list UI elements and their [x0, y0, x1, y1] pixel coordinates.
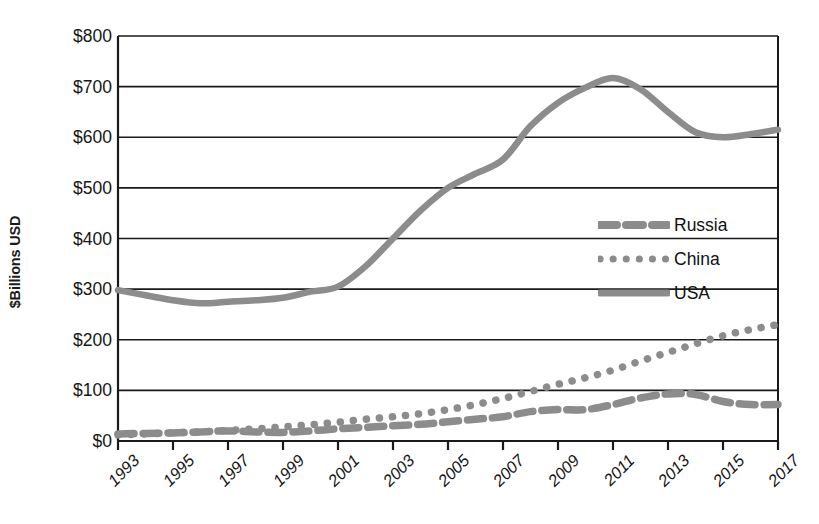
legend-label: Russia [674, 215, 728, 236]
line-chart: $Billions USD $800$700$600$500$400$300$2… [0, 0, 819, 524]
legend-item-china[interactable]: China [598, 242, 766, 276]
y-axis-tick-label: $700 [42, 76, 112, 97]
legend-label: China [674, 249, 720, 270]
chart-legend: RussiaChinaUSA [598, 208, 766, 312]
y-axis-tick-label: $800 [42, 26, 112, 47]
x-axis-tick-label: 2015 [693, 451, 749, 507]
x-axis-tick-label: 1999 [253, 451, 309, 507]
dashed-line-swatch [598, 215, 670, 235]
solid-line-swatch [598, 283, 670, 303]
x-axis-tick-label: 2009 [528, 451, 584, 507]
dotted-line-swatch [598, 249, 670, 269]
x-axis-tick-label: 2001 [308, 451, 364, 507]
x-axis-tick-label: 1997 [198, 451, 254, 507]
y-axis-tick-label: $300 [42, 279, 112, 300]
legend-label: USA [674, 283, 710, 304]
y-axis-tick-label: $200 [42, 329, 112, 350]
x-axis-tick-label: 2011 [583, 451, 639, 507]
x-axis-tick-label: 2005 [418, 451, 474, 507]
y-axis-tick-label: $100 [42, 380, 112, 401]
legend-item-usa[interactable]: USA [598, 276, 766, 310]
x-axis-tick-label: 1995 [143, 451, 199, 507]
y-axis-tick-labels: $800$700$600$500$400$300$200$100$0 [40, 0, 112, 524]
x-axis-tick-label: 2003 [363, 451, 419, 507]
x-axis-tick-labels: 1993199519971999200120032005200720092011… [118, 441, 778, 524]
x-axis-tick-label: 2007 [473, 451, 529, 507]
x-axis-tick-label: 2013 [638, 451, 694, 507]
y-axis-tick-label: $600 [42, 127, 112, 148]
y-axis-tick-label: $0 [42, 431, 112, 452]
x-axis-tick-label: 2017 [748, 451, 804, 507]
y-axis-tick-label: $400 [42, 228, 112, 249]
series-line-russia [118, 393, 778, 433]
y-axis-tick-label: $500 [42, 177, 112, 198]
legend-item-russia[interactable]: Russia [598, 208, 766, 242]
y-axis-title: $Billions USD [0, 0, 30, 524]
